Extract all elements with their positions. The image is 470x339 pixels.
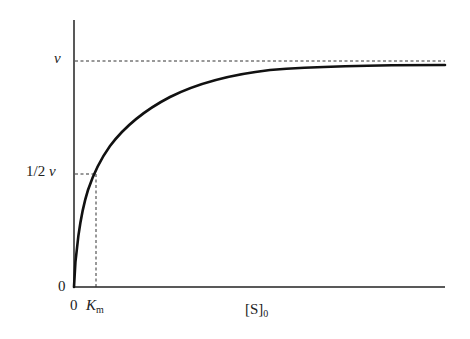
y-tick-v: v xyxy=(54,51,61,66)
y-tick-half-var: v xyxy=(49,163,56,179)
y-tick-half-v: 1/2 v xyxy=(26,164,56,179)
saturation-curve xyxy=(74,65,445,287)
x-axis-label: [S]0 xyxy=(245,302,268,319)
x-tick-km: Km xyxy=(86,298,104,315)
x-axis-label-sub: 0 xyxy=(263,308,268,319)
chart-canvas xyxy=(0,0,470,339)
x-tick-km-main: K xyxy=(86,297,96,313)
y-tick-half-prefix: 1/2 xyxy=(26,163,49,179)
y-tick-zero: 0 xyxy=(58,279,66,294)
x-tick-zero: 0 xyxy=(70,298,78,313)
x-axis-label-main: [S] xyxy=(245,301,263,317)
x-tick-km-sub: m xyxy=(96,304,104,315)
